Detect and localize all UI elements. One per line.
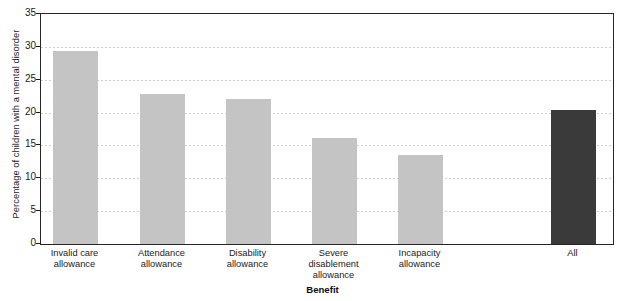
bar-series bbox=[41, 14, 613, 244]
y-tick-label: 5 bbox=[14, 205, 36, 215]
bar bbox=[140, 94, 185, 244]
y-tick-label: 25 bbox=[14, 74, 36, 84]
plot-area bbox=[40, 13, 614, 245]
x-tick-label-line: allowance bbox=[368, 259, 472, 270]
x-tick-label-line: allowance bbox=[282, 270, 386, 281]
y-tick-label: 30 bbox=[14, 41, 36, 51]
x-tick-label: Incapacityallowance bbox=[368, 248, 472, 270]
y-tick-label: 15 bbox=[14, 139, 36, 149]
y-tick-label: 20 bbox=[14, 107, 36, 117]
x-tick-label-line: All bbox=[521, 248, 623, 259]
bar bbox=[226, 99, 271, 244]
x-axis-title: Benefit bbox=[0, 284, 623, 295]
bar-chart-figure: Percentage of children with a mental dis… bbox=[0, 0, 623, 301]
bar bbox=[53, 51, 98, 244]
x-tick-label-line: Incapacity bbox=[368, 248, 472, 259]
x-tick-label: All bbox=[521, 248, 623, 259]
bar bbox=[551, 110, 596, 244]
y-tick-label: 10 bbox=[14, 172, 36, 182]
bar bbox=[312, 138, 357, 244]
bar bbox=[398, 155, 443, 244]
y-tick-label: 35 bbox=[14, 8, 36, 18]
y-tick-label: 0 bbox=[14, 238, 36, 248]
x-axis-title-text: Benefit bbox=[306, 284, 339, 295]
